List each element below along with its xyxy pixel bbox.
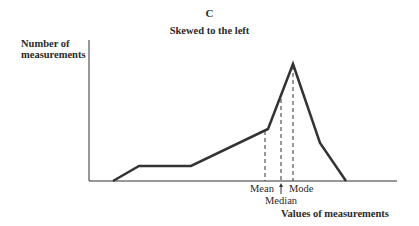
x-axis-label: Values of measurements	[281, 208, 389, 219]
median-label: Median	[265, 195, 297, 206]
chart-plot	[0, 0, 419, 226]
median-arrowhead-icon	[279, 183, 283, 187]
mode-label: Mode	[289, 183, 314, 194]
distribution-line	[113, 64, 346, 181]
mean-label: Mean	[250, 183, 274, 194]
